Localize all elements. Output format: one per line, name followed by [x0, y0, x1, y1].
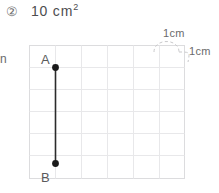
unit-height-label: 1cm: [189, 46, 211, 57]
callout-bracket-right: [179, 52, 189, 62]
point-label-a: A: [41, 53, 50, 66]
point-label-b: B: [41, 171, 50, 184]
point-a-dot: [52, 64, 59, 71]
clipped-margin-glyph: n: [0, 53, 7, 65]
unit-width-label: 1cm: [163, 28, 185, 39]
answer-magnitude-and-unit: 10 cm: [31, 3, 73, 19]
point-b-dot: [52, 160, 59, 167]
answer-unit-exponent: 2: [73, 2, 78, 12]
item-number-badge: ②: [6, 5, 18, 18]
worksheet-figure-panel: ② 10 cm2 n: [0, 0, 219, 193]
answer-value: 10 cm2: [31, 3, 78, 18]
callout-bracket-top: [154, 42, 179, 53]
answer-line: ② 10 cm2: [6, 3, 78, 18]
